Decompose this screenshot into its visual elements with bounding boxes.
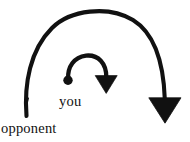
you-rotation-arrow: [63, 55, 117, 93]
rotation-diagram: you opponent: [0, 0, 190, 142]
opponent-arc-path: [26, 11, 165, 116]
opponent-label: opponent: [1, 121, 57, 136]
you-arrowhead-icon: [95, 76, 117, 94]
you-pivot-dot-icon: [63, 76, 72, 85]
you-label: you: [59, 94, 81, 109]
opponent-arrowhead-icon: [149, 98, 181, 123]
